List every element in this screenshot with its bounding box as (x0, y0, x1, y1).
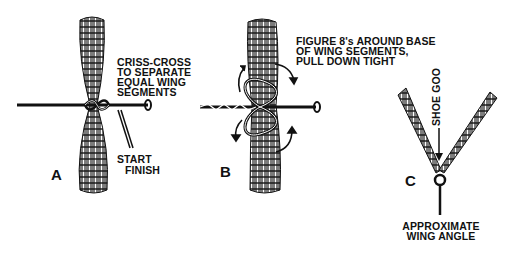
panel-a-finish-label: FINISH (125, 165, 160, 175)
callout-line: PULL DOWN TIGHT (296, 56, 436, 66)
panel-c-wings (398, 88, 497, 215)
panel-a-callout: CRISS-CROSS TO SEPARATE EQUAL WING SEGME… (117, 57, 191, 97)
panel-b-letter: B (220, 163, 231, 180)
panel-b-callout: FIGURE 8's AROUND BASE OF WING SEGMENTS,… (296, 36, 436, 66)
panel-c-letter: C (405, 172, 416, 189)
panel-a-letter: A (51, 166, 62, 183)
caption-line: WING ANGLE (398, 231, 484, 241)
panel-a-start-label: START (117, 154, 152, 164)
panel-c-caption: APPROXIMATE WING ANGLE (398, 221, 484, 241)
callout-line: SEGMENTS (117, 87, 191, 97)
panel-c-shoe-goo-label: SHOE GOO (431, 68, 441, 126)
